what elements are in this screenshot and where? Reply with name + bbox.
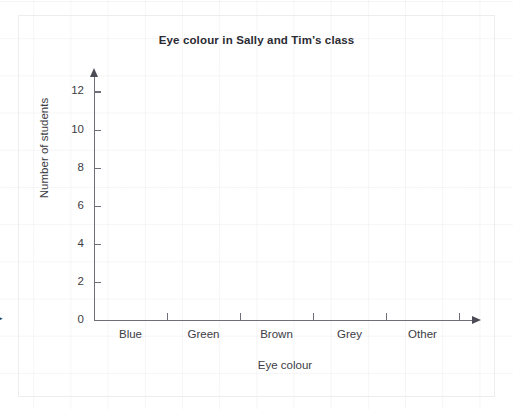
chart-title: Eye colour in Sally and Tim’s class xyxy=(0,34,513,46)
figure-frame xyxy=(18,15,495,397)
worksheet-page: ▸ Eye colour in Sally and Tim’s class 0 … xyxy=(0,0,513,409)
margin-bullet-icon: ▸ xyxy=(0,311,3,324)
